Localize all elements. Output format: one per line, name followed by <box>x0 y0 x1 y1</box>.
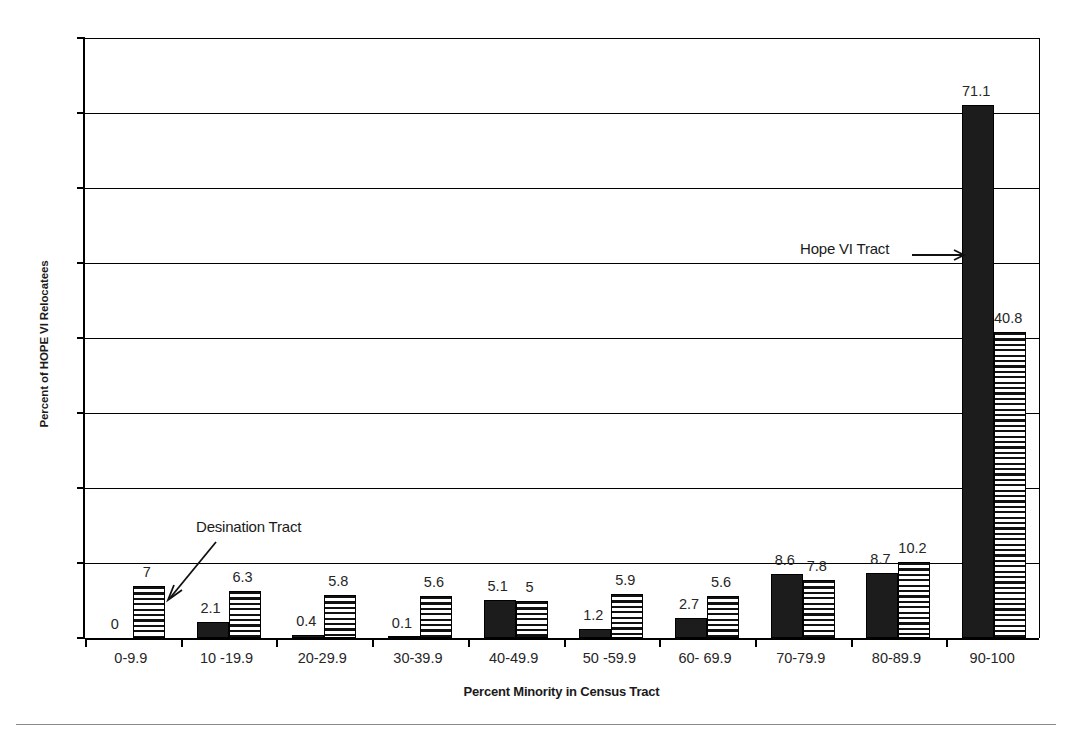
bar-value-label: 2.7 <box>649 596 729 612</box>
bar-hope-vi-tract <box>962 105 994 638</box>
y-gridline <box>85 638 1039 640</box>
bar-hope-vi-tract <box>292 635 324 638</box>
y-tick-mark <box>77 187 85 189</box>
annotation-destination-tract: Desination Tract <box>196 518 301 535</box>
annotation-hope-vi-tract: Hope VI Tract <box>800 240 889 257</box>
x-tick-mark <box>755 638 757 647</box>
y-tick-mark <box>77 562 85 564</box>
bar-destination-tract <box>516 601 548 639</box>
bar-destination-tract <box>898 562 930 639</box>
y-gridline <box>85 413 1039 414</box>
bar-value-label: 71.1 <box>936 83 1016 99</box>
bar-hope-vi-tract <box>484 600 516 638</box>
bar-hope-vi-tract <box>866 573 898 638</box>
y-tick-mark <box>77 262 85 264</box>
y-gridline <box>85 338 1039 339</box>
bar-destination-tract <box>803 580 835 639</box>
y-axis-title: Percent of HOPE VI Relocatees <box>38 194 50 494</box>
bar-value-label: 0.1 <box>362 615 442 631</box>
y-tick-mark <box>77 412 85 414</box>
bar-hope-vi-tract <box>197 622 229 638</box>
x-tick-mark <box>276 638 278 647</box>
bar-value-label: 0.4 <box>266 613 346 629</box>
y-gridline <box>85 113 1039 114</box>
bar-value-label: 5.6 <box>681 574 761 590</box>
x-tick-mark <box>659 638 661 647</box>
footer-divider <box>16 724 1056 725</box>
y-tick-mark <box>77 112 85 114</box>
x-tick-mark <box>372 638 374 647</box>
annotation-arrow-right-icon <box>912 245 992 265</box>
bar-value-label: 10.2 <box>872 540 952 556</box>
bar-hope-vi-tract <box>771 574 803 639</box>
y-tick-mark <box>77 487 85 489</box>
bar-chart-figure: Percent of HOPE VI Relocatees 0102030405… <box>0 0 1068 736</box>
bar-destination-tract <box>994 332 1026 638</box>
y-gridline <box>85 38 1039 39</box>
x-tick-mark <box>468 638 470 647</box>
bar-value-label: 0 <box>75 616 155 632</box>
bar-value-label: 5.8 <box>298 573 378 589</box>
y-gridline <box>85 188 1039 189</box>
bar-hope-vi-tract <box>579 629 611 638</box>
y-tick-mark <box>77 37 85 39</box>
x-axis-title: Percent Minority in Census Tract <box>83 684 1040 699</box>
x-tick-mark <box>851 638 853 647</box>
x-tick-mark <box>85 638 87 647</box>
y-tick-mark <box>77 637 85 639</box>
y-gridline <box>85 263 1039 264</box>
bar-value-label: 40.8 <box>968 310 1048 326</box>
x-tick-mark <box>564 638 566 647</box>
x-tick-label: 90-100 <box>912 650 1068 666</box>
bar-value-label: 1.2 <box>553 607 633 623</box>
bar-hope-vi-tract <box>388 636 420 638</box>
x-tick-mark <box>946 638 948 647</box>
bar-hope-vi-tract <box>675 618 707 638</box>
annotation-arrow-downleft-icon <box>160 540 240 610</box>
bar-value-label: 5.9 <box>585 572 665 588</box>
y-tick-mark <box>77 337 85 339</box>
y-gridline <box>85 488 1039 489</box>
bar-value-label: 5 <box>490 579 570 595</box>
x-tick-mark <box>181 638 183 647</box>
